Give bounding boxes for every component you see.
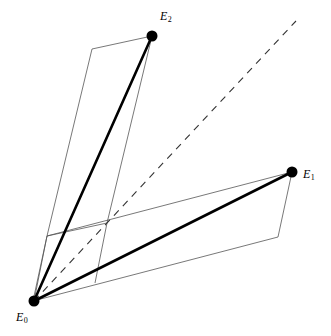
left-parallelogram-lower-extension-left (34, 236, 47, 301)
vertex-label-e2: E2 (160, 10, 172, 24)
left-parallelogram-lower-extension-right (95, 223, 107, 283)
dashed-diagonal-line (34, 21, 296, 301)
figure-canvas (0, 0, 331, 336)
vertex-dot-e0 (29, 296, 40, 307)
edge-e0-e1 (34, 172, 292, 301)
vertex-label-e1-subscript: 1 (310, 173, 314, 182)
vertex-dot-e2 (147, 31, 158, 42)
vertex-label-e0-subscript: 0 (23, 316, 27, 325)
geometry-figure: E0 E1 E2 (0, 0, 331, 336)
left-parallelogram (47, 36, 152, 236)
vertex-label-e2-subscript: 2 (167, 15, 171, 24)
edge-e0-e2 (34, 36, 152, 301)
vertex-dots-group (29, 31, 298, 307)
vertex-label-e0: E0 (16, 311, 28, 325)
vertex-label-e1: E1 (303, 168, 315, 182)
thick-edges-group (34, 36, 292, 301)
vertex-dot-e1 (287, 167, 298, 178)
